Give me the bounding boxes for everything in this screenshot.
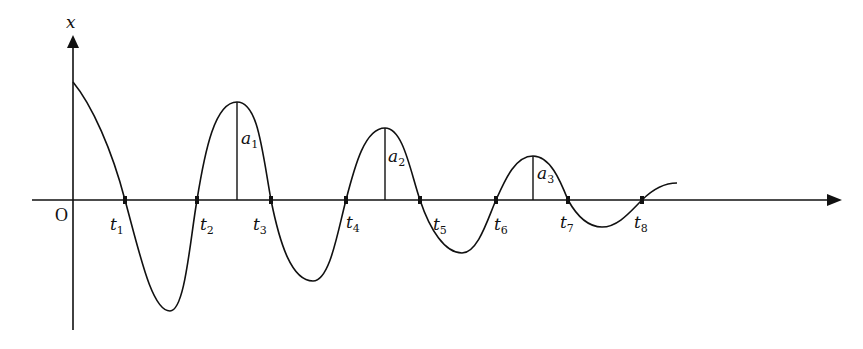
- x-axis-label: x: [66, 14, 76, 31]
- marker-t4: [344, 196, 348, 204]
- damped-oscillation-diagram: x O t1 t2 t3 t4 t5 t6 t7 t8 a1 a2 a3: [0, 0, 863, 349]
- marker-t6: [494, 196, 498, 204]
- label-t7: t7: [560, 214, 574, 234]
- marker-t2: [195, 196, 199, 204]
- label-t3: t3: [253, 216, 267, 236]
- marker-t1: [123, 196, 127, 204]
- label-t2: t2: [200, 216, 214, 236]
- marker-t7: [566, 196, 570, 204]
- label-t4: t4: [346, 214, 360, 234]
- oscillation-curve: [73, 82, 677, 311]
- label-t8: t8: [634, 214, 648, 234]
- x-axis-arrow-icon: [67, 35, 79, 48]
- marker-t3: [269, 196, 273, 204]
- marker-t5: [418, 196, 422, 204]
- t-axis-arrow-icon: [827, 194, 842, 206]
- label-t5: t5: [433, 216, 447, 236]
- origin-label: O: [55, 206, 68, 224]
- label-a3: a3: [537, 165, 554, 185]
- label-a2: a2: [388, 148, 405, 168]
- label-t1: t1: [110, 216, 124, 236]
- label-a1: a1: [241, 130, 258, 150]
- label-t6: t6: [494, 216, 508, 236]
- diagram-canvas: [0, 0, 863, 349]
- marker-t8: [640, 196, 644, 204]
